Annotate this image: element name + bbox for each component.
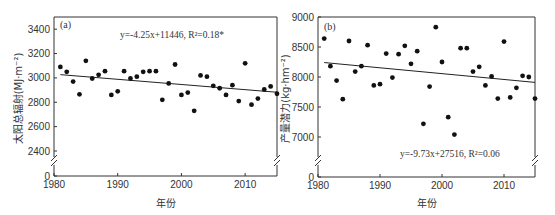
data-point [211,83,216,88]
data-point [427,84,432,89]
x-tick-label: 2000 [431,180,454,191]
data-point [64,69,69,74]
data-point [160,97,165,102]
data-point [371,83,376,88]
x-axis-label: 年份 [156,197,176,209]
data-point [83,58,88,63]
data-point [268,84,273,89]
data-point [415,49,420,54]
x-tick-label: 2000 [170,179,193,190]
data-point [179,93,184,98]
panel-b: 0700075008000850090001980199020002010(b)… [279,12,538,210]
data-point [122,69,127,74]
panel-label: (a) [60,19,71,31]
data-point [322,36,327,41]
data-point [134,74,139,79]
x-tick-label: 1990 [369,180,392,191]
data-point [526,75,531,80]
y-tick-label: 3200 [28,48,51,59]
data-point [328,64,333,69]
data-point [166,81,171,86]
data-point [205,74,210,79]
data-point [109,93,114,98]
chart-figure: 0240026002800300032003400198019902000201… [0,0,555,215]
y-axis-label: 太阳总辐射(MJ·m⁻²) [12,53,24,145]
data-point [347,39,352,44]
data-point [489,74,494,79]
panel-label: (b) [324,21,336,33]
data-point [255,96,260,101]
x-axis-label: 年份 [417,197,437,209]
panel-a: 0240026002800300032003400198019902000201… [12,17,280,209]
x-tick-label: 2010 [493,180,516,191]
data-point [421,121,426,126]
data-point [71,79,76,84]
data-point [224,93,229,98]
x-tick-label: 1980 [307,180,330,191]
data-point [353,69,358,74]
data-point [396,52,401,57]
y-tick-label: 2600 [28,121,51,132]
data-point [154,69,159,74]
y-tick-label: 2400 [28,146,51,157]
x-tick-label: 1980 [43,179,66,190]
data-point [262,87,267,92]
data-point [334,78,339,83]
data-point [58,65,63,70]
data-point [520,73,525,78]
data-point [217,86,222,91]
data-point [141,69,146,74]
data-point [230,83,235,88]
data-point [495,96,500,101]
data-point [340,97,345,102]
data-point [440,60,445,65]
data-point [243,61,248,66]
data-point [390,75,395,80]
data-point [446,115,451,120]
data-point [452,132,457,137]
data-point [378,82,383,87]
data-point [249,102,254,107]
data-point [192,108,197,113]
data-point [77,92,82,97]
data-point [508,95,513,100]
data-point [173,62,178,67]
data-point [236,99,241,104]
data-point [384,51,389,56]
y-tick-label: 2800 [28,97,51,108]
regression-equation: y=-4.25x+11446, R²=0.18* [120,30,224,40]
y-tick-label: 8500 [292,42,315,53]
y-axis-label: 产量潜力(kg·hm⁻²) [279,54,291,143]
y-tick-label: 9000 [292,12,315,23]
data-point [185,90,190,95]
data-point [147,69,152,74]
data-point [458,46,463,51]
y-tick-label: 8000 [292,72,315,83]
data-point [533,96,538,101]
data-point [464,46,469,51]
regression-equation: y=-9.73x+27516, R²=0.06 [400,149,500,159]
y-tick-label: 3400 [28,24,51,35]
data-point [115,89,120,94]
y-tick-label: 7000 [292,132,315,143]
data-point [471,69,476,74]
data-point [477,64,482,69]
x-tick-label: 2010 [234,179,257,190]
data-point [198,73,203,78]
data-point [483,83,488,88]
data-point [96,72,101,77]
data-point [502,39,507,44]
x-tick-label: 1990 [107,179,130,190]
data-point [128,76,133,81]
y-tick-label: 7500 [292,102,315,113]
data-point [275,91,280,96]
y-tick-label: 3000 [28,72,51,83]
data-point [103,69,108,74]
data-point [90,76,95,81]
data-point [433,25,438,30]
data-point [365,43,370,48]
data-point [514,85,519,90]
data-point [402,43,407,48]
data-point [409,61,414,66]
data-point [359,64,364,69]
